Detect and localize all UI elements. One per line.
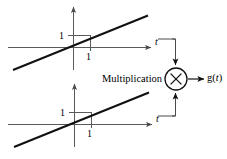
upper-plot-axes (8, 7, 151, 70)
lower-x-axis-label: t (156, 114, 159, 124)
lower-y-tick-label: 1 (60, 108, 65, 118)
signal-multiplication-diagram: 1 1 t 1 1 t Multiplication g(t) (0, 0, 227, 159)
output-signal-label: g(t) (207, 73, 222, 84)
upper-input-wire (172, 39, 176, 65)
lower-input-wire (172, 93, 176, 116)
upper-x-axis-label: t (155, 37, 158, 47)
lower-x-tick-label: 1 (87, 129, 92, 139)
multiplication-label: Multiplication (102, 74, 162, 85)
output-label-base: g( (207, 72, 216, 83)
output-label-close: ) (219, 72, 223, 83)
upper-x-tick-label: 1 (86, 52, 91, 62)
upper-ramp-line (13, 16, 148, 71)
upper-y-tick-label: 1 (59, 31, 64, 41)
multiplier-block (165, 68, 187, 90)
lower-plot-axes (8, 84, 152, 147)
lower-ramp-line (14, 93, 149, 148)
